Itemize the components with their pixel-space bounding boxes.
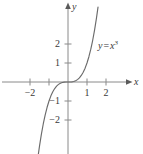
y-tick-label-1: 1 (44, 58, 60, 68)
plot-canvas (0, 0, 143, 154)
y-tick-label--2: −2 (44, 115, 60, 125)
y-tick-label--1: −1 (44, 96, 60, 106)
x-axis-label: x (134, 77, 138, 87)
equation-operator: = (102, 40, 110, 51)
x-tick-label-1: 1 (79, 88, 95, 98)
curve-equation-label: y=x3 (98, 40, 118, 51)
y-axis-label: y (72, 2, 76, 12)
x-tick-label--2: −2 (22, 88, 38, 98)
equation-exponent: 3 (115, 39, 119, 47)
x-axis-arrowhead (126, 79, 133, 85)
x-tick-label-2: 2 (98, 88, 114, 98)
function-graph-figure: 2 1 −1 −2 −2 1 2 y x y=x3 (0, 0, 143, 154)
y-axis-arrowhead (65, 3, 71, 10)
y-tick-label-2: 2 (44, 39, 60, 49)
